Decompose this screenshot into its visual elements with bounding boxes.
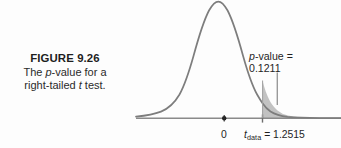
t-density-curve: [136, 2, 341, 119]
axis-label-tdata: tdata = 1.2515: [244, 129, 305, 142]
p-value-annotation-line-1: p-value =: [249, 50, 293, 62]
tdata-subscript: data: [247, 133, 261, 142]
axis-label-zero: 0: [214, 129, 234, 140]
p-value-annotation-label: -value =: [255, 50, 293, 62]
tdata-value: = 1.2515: [261, 129, 305, 140]
p-value-annotation-value: 0.1211: [249, 62, 293, 74]
p-value-shaded-area: [263, 81, 341, 119]
p-value-annotation: p-value = 0.1211: [249, 50, 293, 74]
figure-container: FIGURE 9.26 The p-value for a right-tail…: [0, 0, 341, 148]
